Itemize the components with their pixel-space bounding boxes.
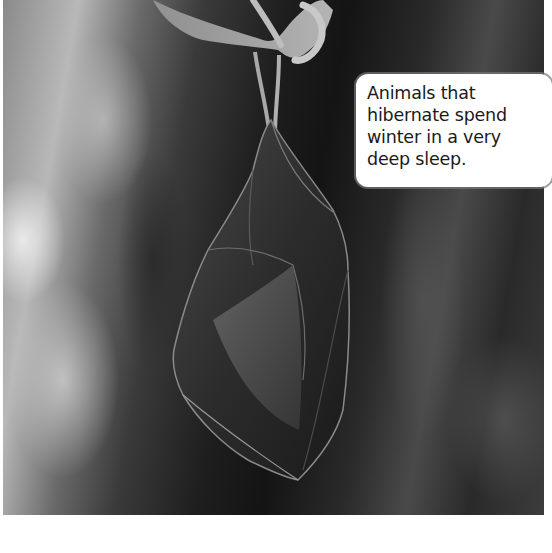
bat-body	[173, 120, 349, 480]
caption-box: Animals that hibernate spend winter in a…	[356, 74, 552, 187]
rock-formation	[153, 0, 333, 60]
caption-text: Animals that hibernate spend winter in a…	[367, 82, 552, 170]
